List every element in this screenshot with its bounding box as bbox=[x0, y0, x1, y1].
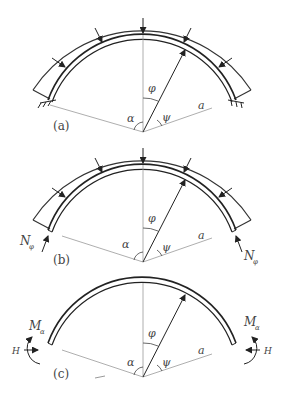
psi-label: ψ bbox=[162, 356, 171, 369]
h-label: H bbox=[263, 346, 272, 356]
normal-force-arrow-icon bbox=[42, 236, 48, 252]
figure-label: (b) bbox=[53, 253, 70, 267]
radius-label: a bbox=[198, 344, 205, 357]
normal-force-arrow-icon bbox=[236, 236, 242, 252]
phi-label: φ bbox=[148, 82, 156, 95]
psi-label: ψ bbox=[162, 241, 171, 254]
shell bbox=[48, 34, 236, 100]
alpha-label: α bbox=[122, 238, 130, 251]
figure-b: φ ψ α a N φ N φ (b) bbox=[19, 148, 258, 267]
h-label: H bbox=[11, 346, 20, 356]
radius-label: a bbox=[198, 229, 205, 242]
svg-text:φ: φ bbox=[29, 243, 34, 251]
figure-c: φ ψ α a M α M α H H (c) bbox=[11, 277, 272, 381]
phi-label: φ bbox=[148, 212, 156, 225]
psi-label: ψ bbox=[162, 111, 171, 124]
svg-text:φ: φ bbox=[253, 258, 258, 266]
radius-label: a bbox=[198, 99, 205, 112]
figure-label: (c) bbox=[53, 367, 69, 381]
phi-label: φ bbox=[148, 327, 156, 340]
load-arrow-icon bbox=[95, 28, 102, 42]
svg-text:α: α bbox=[255, 324, 260, 332]
figure-label: (a) bbox=[53, 119, 70, 133]
shell-diagrams: φ ψ α a (a) φ ψ α a N φ N φ (b) bbox=[0, 0, 284, 394]
alpha-label: α bbox=[127, 112, 135, 125]
svg-text:α: α bbox=[40, 328, 45, 336]
figure-a: φ ψ α a (a) bbox=[33, 18, 251, 133]
alpha-label: α bbox=[127, 356, 135, 369]
